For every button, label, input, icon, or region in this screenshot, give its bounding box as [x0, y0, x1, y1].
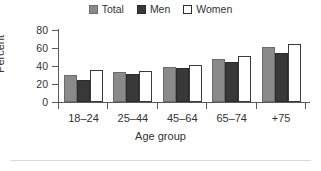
y-axis-title: Percent	[0, 35, 6, 73]
x-tick-label-3: 65–74	[208, 112, 256, 124]
y-tick-label-0: 0	[24, 97, 48, 107]
bar-women-2	[189, 65, 202, 102]
legend-label-total: Total	[102, 4, 124, 14]
x-tick-mark-2	[157, 103, 158, 109]
x-tick-mark-1	[107, 103, 108, 109]
bar-men-1	[126, 74, 139, 102]
y-tick-label-20: 20	[24, 79, 48, 89]
legend-item-men: Men	[137, 4, 170, 14]
bar-women-0	[90, 70, 103, 102]
legend-item-total: Total	[89, 4, 124, 14]
bar-men-2	[176, 68, 189, 102]
y-tick-label-80: 80	[24, 25, 48, 35]
bar-women-4	[288, 44, 301, 103]
legend-item-women: Women	[183, 4, 232, 14]
bar-total-3	[212, 59, 225, 102]
bar-women-3	[238, 56, 251, 102]
x-tick-mark-end	[305, 103, 306, 109]
legend-swatch-men-icon	[137, 5, 146, 14]
bar-group	[113, 30, 152, 102]
bar-men-3	[225, 62, 238, 102]
x-tick-label-2: 45–64	[158, 112, 206, 124]
y-tick-label-60: 60	[24, 43, 48, 53]
x-tick-mark-3	[206, 103, 207, 109]
chart-page: Total Men Women Percent 806040200 18–242…	[0, 0, 321, 171]
bar-men-0	[77, 80, 90, 103]
x-tick-mark-0	[58, 103, 59, 109]
legend-label-women: Women	[196, 4, 232, 14]
x-tick-label-1: 25–44	[109, 112, 157, 124]
y-tick-label-40: 40	[24, 61, 48, 71]
bar-group	[212, 30, 251, 102]
bar-men-4	[275, 53, 288, 102]
x-tick-label-0: 18–24	[60, 112, 108, 124]
x-axis-title: Age group	[0, 130, 321, 142]
bar-total-0	[64, 75, 77, 102]
x-tick-label-4: +75	[257, 112, 305, 124]
legend-swatch-total-icon	[89, 5, 98, 14]
legend-label-men: Men	[150, 4, 170, 14]
bar-group	[64, 30, 103, 102]
x-tick-mark-4	[256, 103, 257, 109]
bar-total-4	[262, 47, 275, 102]
bar-group	[262, 30, 301, 102]
bottom-divider	[10, 160, 311, 161]
bar-women-1	[139, 71, 152, 103]
legend-swatch-women-icon	[183, 5, 192, 14]
chart-legend: Total Men Women	[0, 4, 321, 14]
bar-group	[163, 30, 202, 102]
plot-area	[58, 30, 305, 102]
bar-total-1	[113, 72, 126, 102]
x-axis-line	[58, 102, 310, 103]
bar-total-2	[163, 67, 176, 102]
